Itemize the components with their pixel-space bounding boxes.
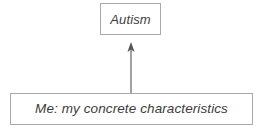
node-me[interactable]: Me: my concrete characteristics: [10, 93, 253, 125]
node-me-label: Me: my concrete characteristics: [35, 102, 228, 116]
edge-arrowhead: [127, 42, 134, 52]
node-autism[interactable]: Autism: [100, 3, 161, 35]
node-autism-label: Autism: [110, 13, 150, 26]
diagram-canvas: Autism Me: my concrete characteristics: [0, 0, 264, 131]
arrow-up-icon: [113, 38, 149, 96]
